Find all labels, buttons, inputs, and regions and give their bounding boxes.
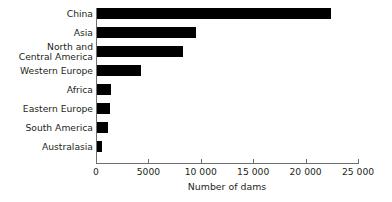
tick-mark xyxy=(96,159,97,164)
tick-mark xyxy=(253,159,254,164)
tick-label-25000: 25 000 xyxy=(342,166,374,177)
value-axis-title: Number of dams xyxy=(96,181,358,192)
tick-label-20000: 20 000 xyxy=(290,166,322,177)
tick-mark xyxy=(201,159,202,164)
value-axis-ticks: 0 5000 10 000 15 000 20 000 25 000 xyxy=(0,0,392,202)
tick-label-5000: 5000 xyxy=(137,166,160,177)
tick-label-10000: 10 000 xyxy=(185,166,217,177)
tick-label-15000: 15 000 xyxy=(237,166,269,177)
tick-mark xyxy=(358,159,359,164)
tick-mark xyxy=(148,159,149,164)
bar-chart-figure: China Asia North and Central America Wes… xyxy=(0,0,392,202)
tick-mark xyxy=(306,159,307,164)
tick-label-0: 0 xyxy=(93,166,99,177)
